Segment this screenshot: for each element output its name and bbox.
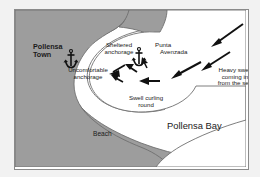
figure-background: Pollensa Town Sheltered anchorage Uncomf… (0, 0, 260, 177)
label-swell-curling-round: Swell curling round (120, 95, 172, 108)
label-sheltered-anchorage: Sheltered anchorage (95, 42, 143, 55)
label-punta-avenzada-line2: Avenzada (160, 49, 197, 56)
label-pollensa-town-line2: Town (33, 51, 63, 59)
label-uncomfortable-anchorage-line2: anchorage (59, 74, 117, 81)
label-pollensa-town: Pollensa Town (33, 43, 63, 59)
label-beach: Beach (93, 130, 112, 137)
map-plate: Pollensa Town Sheltered anchorage Uncomf… (14, 9, 249, 170)
map-canvas (15, 10, 246, 167)
label-heavy-swell: Heavy swell coming in from the sea (206, 67, 249, 87)
label-sheltered-anchorage-line2: anchorage (95, 49, 143, 56)
label-heavy-swell-line3: from the sea (206, 80, 249, 87)
label-uncomfortable-anchorage: Uncomfortable anchorage (59, 67, 117, 80)
label-swell-curling-round-line2: round (120, 102, 172, 109)
label-pollensa-bay: Pollensa Bay (167, 121, 222, 131)
label-punta-avenzada: Punta Avenzada (155, 42, 197, 55)
